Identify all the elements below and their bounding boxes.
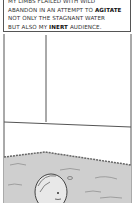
caption-box: My limbs flailed with wild abandon in an… (3, 0, 131, 32)
caption-line-3: not only the stagnant water (8, 14, 132, 23)
caption-line-2: abandon in an attempt to agitate (8, 6, 132, 15)
caption-emphasis-agitate: agitate (95, 7, 122, 13)
caption-line-4-text: but also my (8, 24, 49, 30)
caption-emphasis-inert: inert (49, 24, 68, 30)
caption-line-2-text: abandon in an attempt to (8, 7, 95, 13)
caption-line-4: but also my inert audience. (8, 23, 132, 32)
caption-text: My limbs flailed with wild abandon in an… (8, 0, 132, 31)
caption-line-4-end: audience. (68, 24, 102, 30)
floor-line (4, 122, 131, 127)
